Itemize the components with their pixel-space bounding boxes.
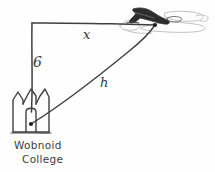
horizontal-leg-line	[32, 23, 155, 25]
vertical-leg-line	[32, 23, 33, 112]
airplane-icon	[126, 8, 182, 24]
label-x: x	[83, 28, 90, 41]
label-6: 6	[33, 55, 42, 69]
caption-wobnoid: Wobnoid	[14, 140, 62, 151]
label-h: h	[100, 76, 108, 89]
caption-college: College	[22, 154, 63, 165]
college-point	[29, 122, 33, 126]
airplane-point	[153, 23, 157, 27]
sketch-figure: x 6 h Wobnoid College	[0, 0, 215, 172]
